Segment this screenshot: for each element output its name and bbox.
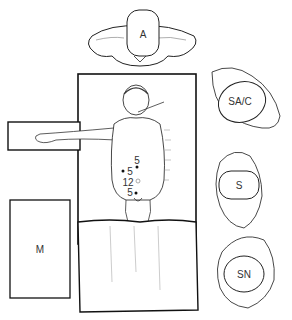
team-member-a: A [88,10,196,66]
port-5-left [122,170,125,173]
svg-text:M: M [36,244,44,255]
patient-head [123,85,149,115]
svg-text:SA/C: SA/C [228,96,251,107]
monitor: M [10,200,70,298]
svg-text:5: 5 [134,155,140,166]
surgical-drape [78,220,198,312]
team-member-s: S [216,152,262,228]
svg-text:5: 5 [127,166,133,177]
svg-text:5: 5 [127,187,133,198]
port-5-lower [135,192,138,195]
team-member-sn: SN [217,237,274,308]
label-a: A [140,29,147,40]
svg-text:SN: SN [237,269,251,280]
or-setup-diagram: A 5 5 12 5 SA/C [0,0,292,320]
team-member-sac: SA/C [212,68,280,129]
svg-text:S: S [236,180,243,191]
